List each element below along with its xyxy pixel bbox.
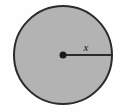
circle-with-radius-diagram: x xyxy=(0,0,124,112)
radius-label: x xyxy=(83,41,89,53)
center-point-dot xyxy=(60,52,67,59)
diagram-svg: x xyxy=(0,0,124,112)
